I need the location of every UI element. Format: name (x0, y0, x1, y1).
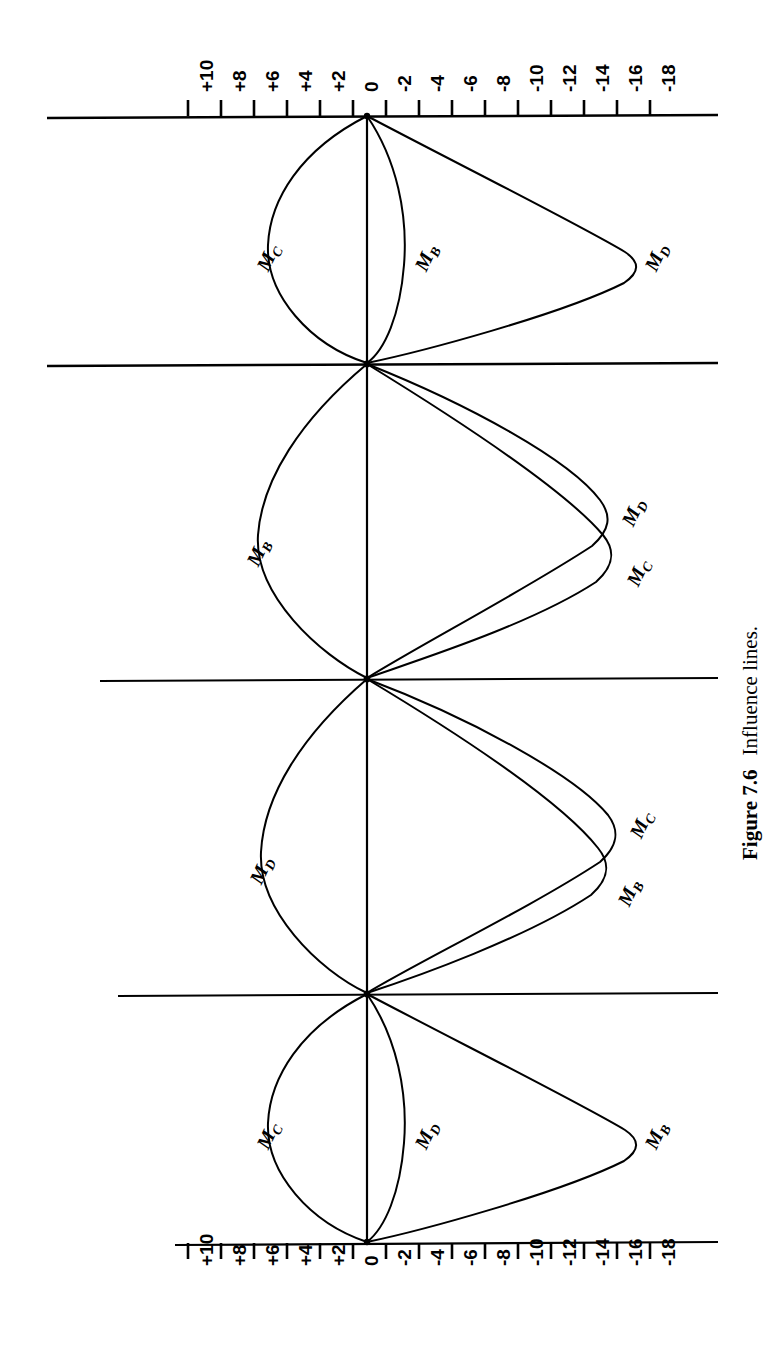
tick-label-bottom-9: -8 (493, 1249, 515, 1266)
tick-label-top-13: -16 (625, 65, 647, 92)
tick-label-bottom-4: +2 (328, 1244, 350, 1266)
tick-label-bottom-7: -4 (427, 1249, 449, 1266)
tick-label-bottom-12: -14 (592, 1239, 614, 1266)
tick-label-top-12: -14 (592, 65, 614, 92)
influence-lines-figure: +10 +8 +6 +4 +2 0 -2 -4 -6 -8 -10 -12 -1… (0, 0, 768, 1346)
span-4-curves (268, 994, 636, 1242)
tick-label-top-9: -8 (493, 75, 515, 92)
tick-label-top-4: +2 (328, 70, 350, 92)
tick-label-bottom-14: -18 (658, 1239, 680, 1266)
curve-MD-span-1 (367, 116, 636, 363)
curve-MD-span-2 (367, 364, 608, 678)
support-line-C (100, 678, 718, 681)
span-1-curves (268, 116, 636, 363)
tick-label-top-3: +4 (295, 70, 317, 92)
tick-label-bottom-6: -2 (394, 1249, 416, 1266)
figure-caption-number: Figure 7.6 (738, 769, 762, 860)
tick-label-bottom-11: -12 (559, 1239, 581, 1266)
curve-MC-span-2 (367, 364, 611, 678)
tick-label-top-0: +10 (196, 60, 218, 92)
curve-MC-span-4 (268, 994, 367, 1242)
span-2-curves (258, 364, 612, 678)
tick-label-top-10: -10 (526, 65, 548, 92)
tick-label-top-6: -2 (394, 75, 416, 92)
span-3-curves (261, 679, 616, 993)
figure-caption: Figure 7.6Influence lines. (738, 626, 763, 860)
tick-label-bottom-1: +8 (229, 1244, 251, 1266)
tick-label-top-2: +6 (262, 70, 284, 92)
tick-label-top-5: 0 (361, 81, 383, 92)
tick-label-top-11: -12 (559, 65, 581, 92)
axis-ticks-top (188, 100, 650, 116)
support-line-D (118, 993, 718, 996)
tick-label-top-1: +8 (229, 70, 251, 92)
curve-MB-span-2 (258, 364, 367, 678)
tick-label-top-14: -18 (658, 65, 680, 92)
tick-label-bottom-0: +10 (196, 1234, 218, 1266)
curve-MB-span-3 (367, 679, 606, 993)
figure-caption-text: Influence lines. (738, 626, 762, 755)
curve-MD-span-4 (367, 994, 405, 1242)
curve-MD-span-3 (261, 679, 367, 993)
tick-label-bottom-2: +6 (262, 1244, 284, 1266)
support-line-B (47, 363, 718, 366)
tick-label-bottom-5: 0 (361, 1255, 383, 1266)
tick-label-top-7: -4 (427, 75, 449, 92)
curve-MB-span-4 (367, 994, 636, 1242)
support-lines (47, 115, 718, 1245)
tick-label-bottom-8: -6 (460, 1249, 482, 1266)
curve-MB-span-1 (367, 116, 405, 363)
tick-label-bottom-10: -10 (526, 1239, 548, 1266)
tick-label-bottom-13: -16 (625, 1239, 647, 1266)
curve-MC-span-1 (268, 116, 367, 363)
tick-label-top-8: -6 (460, 75, 482, 92)
tick-label-bottom-3: +4 (295, 1244, 317, 1266)
